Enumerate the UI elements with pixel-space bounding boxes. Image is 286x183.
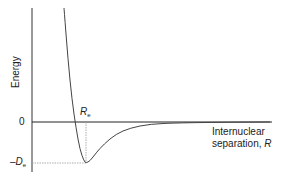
zero-tick-label: 0: [19, 116, 25, 127]
x-axis-label-text: separation,: [212, 138, 264, 149]
re-label-sub: e: [87, 112, 90, 118]
x-axis-label-line2: separation, R: [212, 138, 272, 150]
x-axis-label-line1: Internuclear: [212, 126, 272, 138]
de-label-sub: e: [23, 162, 26, 168]
de-label-main: –D: [10, 156, 23, 167]
re-label: Re: [80, 106, 91, 118]
de-tick-label: –De: [10, 156, 26, 168]
potential-energy-chart: Energy 0 Re –De Internuclear separation,…: [0, 0, 286, 183]
x-axis-label-var: R: [264, 138, 271, 149]
x-axis-label: Internuclear separation, R: [212, 126, 272, 150]
y-axis-label: Energy: [10, 56, 21, 88]
chart-canvas: [0, 0, 286, 183]
